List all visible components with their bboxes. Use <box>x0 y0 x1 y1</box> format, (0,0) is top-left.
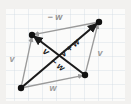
label-negative-w-top: − w <box>48 12 64 22</box>
vertex-dot-lower-right <box>82 72 88 78</box>
vertex-dot-upper-right <box>96 19 102 25</box>
vector-diagram-canvas: v w v − w v + w v − w <box>0 0 131 104</box>
vertex-dot-upper-left <box>29 32 35 38</box>
label-w-bottom: w <box>49 83 57 93</box>
vector-diagram-figure: v w v − w v + w v − w <box>0 0 131 104</box>
vertex-dot-origin <box>18 85 24 91</box>
